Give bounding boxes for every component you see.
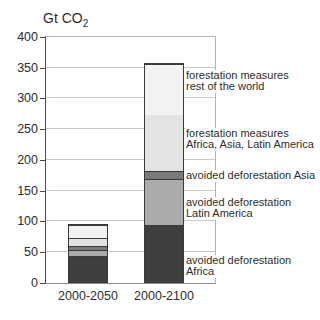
y-tick-label-400: 400 [2, 30, 38, 44]
bar-segment-forestation-rest-of-world [69, 225, 107, 238]
y-tick-label-50: 50 [2, 245, 38, 259]
y-tick-label-350: 350 [2, 61, 38, 75]
bar-segment-forestation-africa-asia-latin-america [145, 114, 183, 171]
gridline-200 [46, 159, 215, 160]
y-tick-250 [40, 129, 45, 130]
annotation-forestation-rest-of-world: forestation measuresrest of the world [185, 70, 291, 93]
bar-2000-2050 [68, 224, 108, 283]
bar-2000-2100 [144, 63, 184, 283]
y-tick-400 [40, 37, 45, 38]
bar-segment-avoided-deforestation-latin-america [69, 250, 107, 256]
bar-segment-avoided-deforestation-asia [145, 171, 183, 179]
y-tick-label-250: 250 [2, 122, 38, 136]
annotation-avoided-deforestation-asia-line-1: avoided deforestation Asia [186, 170, 315, 181]
bar-segment-avoided-deforestation-asia [69, 246, 107, 250]
annotation-forestation-africa-asia-latin-america-line-2: Africa, Asia, Latin America [186, 139, 314, 150]
y-tick-50 [40, 252, 45, 253]
bar-segment-forestation-rest-of-world [145, 64, 183, 115]
y-tick-100 [40, 221, 45, 222]
y-tick-label-200: 200 [2, 153, 38, 167]
annotation-avoided-deforestation-latin-america-line-2: Latin America [186, 208, 291, 219]
y-axis-unit-label: Gt CO2 [43, 10, 88, 29]
annotation-avoided-deforestation-asia: avoided deforestation Asia [185, 170, 317, 182]
stacked-bar-chart: Gt CO2 050100150200250300350400 2000-205… [0, 0, 320, 320]
y-axis-unit-subscript: 2 [83, 18, 89, 29]
annotation-forestation-rest-of-world-line-2: rest of the world [186, 81, 289, 92]
y-tick-0 [40, 283, 45, 284]
y-tick-200 [40, 160, 45, 161]
y-tick-label-0: 0 [2, 276, 38, 290]
gridline-150 [46, 190, 215, 191]
category-label-2000-2100: 2000-2100 [119, 289, 209, 303]
gridline-350 [46, 67, 215, 68]
bar-segment-avoided-deforestation-latin-america [145, 179, 183, 225]
bar-segment-avoided-deforestation-africa [69, 256, 107, 282]
annotation-avoided-deforestation-africa: avoided deforestationAfrica [185, 255, 293, 278]
y-tick-label-300: 300 [2, 91, 38, 105]
annotation-forestation-africa-asia-latin-america: forestation measuresAfrica, Asia, Latin … [185, 128, 316, 151]
y-tick-300 [40, 98, 45, 99]
gridline-100 [46, 220, 215, 221]
y-tick-350 [40, 68, 45, 69]
y-tick-label-150: 150 [2, 184, 38, 198]
y-tick-150 [40, 191, 45, 192]
annotation-avoided-deforestation-latin-america: avoided deforestationLatin America [185, 197, 293, 220]
y-axis-unit-text: Gt CO [43, 10, 83, 26]
annotation-avoided-deforestation-africa-line-2: Africa [186, 266, 291, 277]
bar-segment-avoided-deforestation-africa [145, 225, 183, 282]
gridline-300 [46, 97, 215, 98]
bar-segment-forestation-africa-asia-latin-america [69, 238, 107, 246]
y-tick-label-100: 100 [2, 214, 38, 228]
